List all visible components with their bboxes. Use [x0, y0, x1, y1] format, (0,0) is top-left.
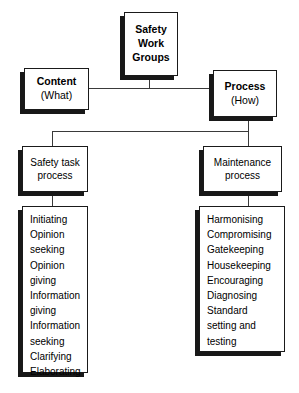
list-item: Opinion	[30, 258, 87, 273]
list-item: setting and	[207, 318, 284, 333]
list-item: Housekeeping	[207, 258, 284, 273]
list-item: seeking	[30, 334, 87, 349]
safety-task-line-2: process	[37, 169, 72, 182]
org-hierarchy-diagram: Safety Work Groups Content (What) Proces…	[0, 0, 299, 393]
connector-process-drop	[248, 117, 249, 132]
connector-bus-to-safety-task	[52, 131, 53, 146]
title-line-3: Groups	[132, 51, 169, 65]
list-box-safety-task-behaviours: Initiating Opinion seeking Opinion givin…	[22, 206, 88, 373]
list-item: Gatekeeping	[207, 242, 284, 257]
list-item: Information	[30, 318, 87, 333]
connector-process-children-bus	[52, 131, 249, 132]
branch-content-subtitle: (What)	[41, 89, 73, 103]
connector-safety-task-to-list	[52, 192, 53, 206]
branch-content-title: Content	[37, 75, 77, 89]
list-item: Initiating	[30, 212, 87, 227]
list-item: Information	[30, 288, 87, 303]
title-line-1: Safety	[135, 23, 167, 37]
connector-maintenance-to-list	[248, 192, 249, 206]
safety-task-line-1: Safety task	[30, 156, 79, 169]
branch-process-title: Process	[225, 80, 266, 94]
list-item: Compromising	[207, 227, 284, 242]
maintenance-line-2: process	[225, 169, 260, 182]
branch-process-subtitle: (How)	[231, 94, 259, 108]
title-line-2: Work	[138, 37, 164, 51]
list-item: Diagnosing	[207, 288, 284, 303]
list-item: testing	[207, 334, 284, 349]
list-item: seeking	[30, 242, 87, 257]
process-box-safety-task-process: Safety task process	[22, 146, 88, 192]
maintenance-line-1: Maintenance	[214, 156, 271, 169]
list-item: Opinion	[30, 227, 87, 242]
branch-box-content: Content (What)	[24, 68, 89, 110]
list-item: giving	[30, 273, 87, 288]
branch-box-process: Process (How)	[213, 70, 277, 117]
list-item: giving	[30, 303, 87, 318]
list-item: Encouraging	[207, 273, 284, 288]
title-box-safety-work-groups: Safety Work Groups	[124, 12, 178, 76]
connector-bus-to-maintenance	[248, 131, 249, 146]
list-item: Clarifying	[30, 349, 87, 364]
list-item: Harmonising	[207, 212, 284, 227]
list-item: Standard	[207, 303, 284, 318]
connector-content-process-bus	[89, 88, 213, 89]
list-box-maintenance-behaviours: Harmonising Compromising Gatekeeping Hou…	[199, 206, 285, 352]
list-item: Elaborating	[30, 364, 87, 379]
process-box-maintenance-process: Maintenance process	[203, 146, 282, 192]
